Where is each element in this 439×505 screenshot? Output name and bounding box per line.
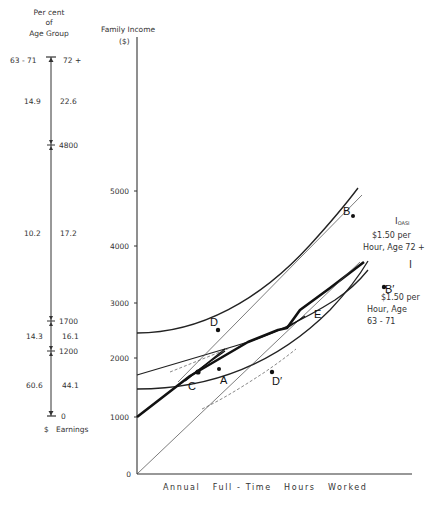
- y-tick-1000: 1000: [110, 413, 129, 422]
- wage-line-63-71: [137, 262, 360, 474]
- seg2-63-71: 10.2: [24, 229, 41, 238]
- wage-line-72-plus: [178, 195, 362, 382]
- y-tick-4000: 4000: [110, 242, 129, 251]
- label-d-prime: D′: [272, 375, 282, 387]
- annotation-63-line3: 63 - 71: [367, 317, 395, 326]
- y-tick-0: 0: [126, 470, 131, 479]
- seg4-72-plus: 44.1: [62, 381, 79, 390]
- marker-4800: 4800: [47, 140, 78, 150]
- marker-1700-label: 1700: [59, 317, 78, 326]
- y-axis-title: Family Income: [101, 25, 156, 34]
- point-a: [217, 367, 221, 371]
- point-c: [195, 369, 200, 374]
- scale-footer: $ Earnings: [44, 425, 89, 434]
- label-e: E: [314, 308, 321, 320]
- col-63-71-label: 63 - 71: [10, 56, 37, 65]
- marker-1700: 1700: [47, 316, 78, 326]
- marker-0-label: 0: [61, 412, 66, 421]
- curve-i-oasi: [137, 261, 368, 389]
- label-i: I: [409, 259, 412, 270]
- seg3-63-71: 14.3: [26, 332, 43, 341]
- budget-line-63-71: [137, 262, 364, 417]
- seg1-63-71: 14.9: [24, 97, 41, 106]
- marker-1200: 1200: [47, 346, 78, 356]
- kink-e-segment: [287, 316, 305, 328]
- annotation-63-line2: Hour, Age: [367, 305, 407, 314]
- seg1-72-plus: 22.6: [60, 97, 77, 106]
- label-c: C: [188, 380, 196, 392]
- x-axis-title: Annual Full - Time Hours Worked: [163, 483, 368, 492]
- main-chart: Family Income ($) 5000 4000 3000 2000 10…: [101, 25, 425, 492]
- annotation-63-line1: $1.50 per: [381, 293, 420, 302]
- seg2-72-plus: 17.2: [60, 229, 77, 238]
- y-ticks: 5000 4000 3000 2000 1000 0: [110, 187, 137, 479]
- scale-header-line3: Age Group: [29, 29, 69, 38]
- point-d: [216, 328, 220, 332]
- label-a: A: [220, 374, 228, 386]
- point-b: [351, 214, 355, 218]
- col-72-plus-label: 72 +: [63, 56, 81, 65]
- seg4-63-71: 60.6: [26, 381, 43, 390]
- marker-0: 0: [47, 411, 66, 421]
- left-scale: Per cent of Age Group 63 - 71 72 + 4800 …: [10, 8, 89, 434]
- seg3-72-plus: 16.1: [62, 332, 79, 341]
- arrow-up-icon: [49, 58, 54, 63]
- scale-header-line1: Per cent: [34, 8, 65, 17]
- marker-1200-label: 1200: [59, 347, 78, 356]
- scale-header-line2: of: [45, 18, 53, 27]
- marker-4800-label: 4800: [59, 141, 78, 150]
- income-hours-diagram: Per cent of Age Group 63 - 71 72 + 4800 …: [0, 0, 439, 505]
- y-axis-unit: ($): [119, 37, 130, 46]
- annotation-72-line2: Hour, Age 72 +: [363, 243, 425, 252]
- label-i-oasi: IOASI: [395, 216, 410, 226]
- label-d: D: [210, 316, 218, 328]
- point-d-prime: [270, 370, 274, 374]
- y-tick-2000: 2000: [110, 354, 129, 363]
- y-tick-5000: 5000: [110, 187, 129, 196]
- annotation-72-line1: $1.50 per: [372, 231, 411, 240]
- y-tick-3000: 3000: [110, 299, 129, 308]
- label-b: B: [343, 205, 350, 217]
